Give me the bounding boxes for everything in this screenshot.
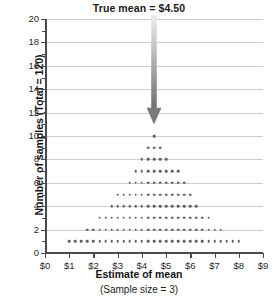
x-axis-tick <box>118 253 119 258</box>
data-dot <box>116 228 119 231</box>
data-dot <box>110 205 113 208</box>
data-dot <box>116 205 119 208</box>
y-axis-tick-label: 4 <box>34 201 39 211</box>
data-dot <box>110 228 113 231</box>
data-dot <box>110 217 113 220</box>
data-dot <box>128 193 131 196</box>
data-dot <box>122 217 125 220</box>
data-dot <box>165 182 168 185</box>
data-dot <box>110 240 113 243</box>
data-dot <box>159 182 162 185</box>
data-dot <box>86 240 89 243</box>
data-dot <box>92 240 95 243</box>
y-axis-tick-label: 8 <box>34 155 39 165</box>
x-axis-tick <box>69 253 70 258</box>
data-dot <box>135 193 138 196</box>
data-dot <box>128 228 131 231</box>
data-dot <box>189 240 192 243</box>
data-dot <box>165 193 168 196</box>
y-axis-tick-label: 6 <box>34 178 39 188</box>
y-axis-minor-tick <box>42 241 45 242</box>
y-axis-tick-label: 2 <box>34 225 39 235</box>
y-axis-tick <box>41 19 45 20</box>
data-dot <box>153 170 156 173</box>
data-dot <box>74 240 77 243</box>
data-dot <box>183 182 186 185</box>
data-dot <box>159 170 162 173</box>
data-dot <box>153 135 156 138</box>
y-axis-minor-tick <box>42 31 45 32</box>
data-dot <box>159 205 162 208</box>
data-dot <box>159 193 162 196</box>
data-dot <box>213 240 216 243</box>
data-dot <box>147 193 150 196</box>
data-dot <box>141 228 144 231</box>
data-dot <box>195 217 198 220</box>
data-dot <box>165 228 168 231</box>
y-axis-tick-label: 12 <box>28 108 39 118</box>
y-axis-minor-tick <box>42 78 45 79</box>
y-axis-tick <box>41 183 45 184</box>
y-axis-minor-tick <box>42 171 45 172</box>
gridline <box>45 89 263 90</box>
y-axis-tick-label: 14 <box>28 84 39 94</box>
data-dot <box>147 182 150 185</box>
data-dot <box>98 217 101 220</box>
data-dot <box>122 228 125 231</box>
data-dot <box>159 158 162 161</box>
x-axis-title: Estimate of mean <box>0 268 278 280</box>
data-dot <box>159 146 162 149</box>
y-axis-tick <box>41 42 45 43</box>
data-dot <box>207 240 210 243</box>
data-dot <box>98 228 101 231</box>
data-dot <box>231 240 234 243</box>
data-dot <box>177 170 180 173</box>
y-axis-tick <box>41 159 45 160</box>
data-dot <box>219 228 222 231</box>
gridline <box>45 66 263 67</box>
data-dot <box>128 182 131 185</box>
y-axis-tick <box>41 230 45 231</box>
x-axis-tick <box>142 253 143 258</box>
y-axis-minor-tick <box>42 101 45 102</box>
y-axis-line <box>45 19 47 253</box>
data-dot <box>141 170 144 173</box>
data-dot <box>122 193 125 196</box>
data-dot <box>135 217 138 220</box>
data-dot <box>177 205 180 208</box>
data-dot <box>147 240 150 243</box>
y-axis-tick <box>41 206 45 207</box>
plot-area: 02468101214161820 $0$1$2$3$4$5$6$7$8$9 <box>45 19 263 253</box>
data-dot <box>153 228 156 231</box>
data-dot <box>135 170 138 173</box>
data-dot <box>171 228 174 231</box>
data-dot <box>189 228 192 231</box>
y-axis-minor-tick <box>42 195 45 196</box>
data-dot <box>165 158 168 161</box>
data-dot <box>177 217 180 220</box>
data-dot <box>135 228 138 231</box>
data-dot <box>189 205 192 208</box>
x-axis-tick <box>93 253 94 258</box>
true-mean-arrow-icon <box>144 15 164 126</box>
y-axis-tick <box>41 89 45 90</box>
data-dot <box>128 217 131 220</box>
data-dot <box>171 193 174 196</box>
data-dot <box>141 193 144 196</box>
data-dot <box>177 182 180 185</box>
data-dot <box>177 193 180 196</box>
y-axis-tick-label: 0 <box>34 248 39 258</box>
data-dot <box>80 240 83 243</box>
data-dot <box>116 240 119 243</box>
data-dot <box>195 228 198 231</box>
data-dot <box>135 182 138 185</box>
data-dot <box>159 217 162 220</box>
data-dot <box>201 240 204 243</box>
x-axis-tick <box>45 253 46 258</box>
data-dot <box>171 217 174 220</box>
y-axis-tick-label: 16 <box>28 61 39 71</box>
data-dot <box>141 158 144 161</box>
y-axis-tick-label: 10 <box>28 131 39 141</box>
data-dot <box>141 205 144 208</box>
x-axis-tick <box>166 253 167 258</box>
